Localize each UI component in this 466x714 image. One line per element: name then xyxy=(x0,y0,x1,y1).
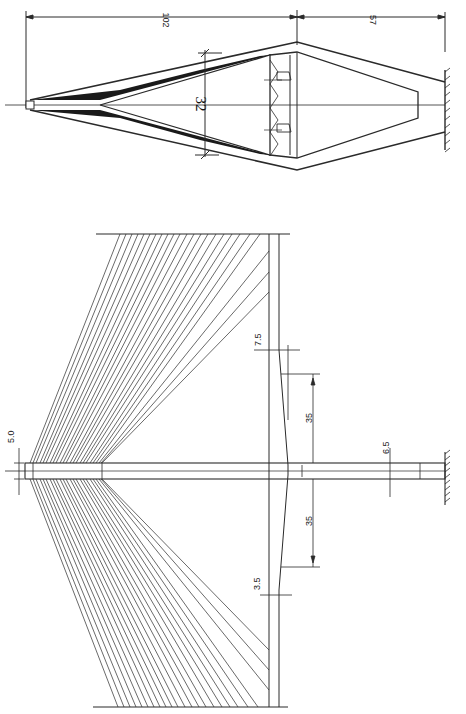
elevation-view xyxy=(5,234,450,707)
dim-total-height: 102 xyxy=(161,12,171,27)
dim-side-width: 3.5 xyxy=(252,577,262,590)
dim-right-length: 35 xyxy=(304,516,314,526)
dim-lower-height: 57 xyxy=(368,15,378,25)
pylon-drawing: 102 57 32 xyxy=(0,0,466,714)
dim-mid-width: 7.5 xyxy=(253,333,263,346)
dim-base-width: 6.5 xyxy=(381,441,391,454)
cable-fan-lower xyxy=(30,479,269,707)
cable-fan-upper xyxy=(30,234,269,463)
dim-top-width: 5.0 xyxy=(6,430,16,443)
dim-left-length: 35 xyxy=(304,413,314,423)
dim-deck-width: 32 xyxy=(193,97,209,112)
transverse-view xyxy=(5,10,450,170)
